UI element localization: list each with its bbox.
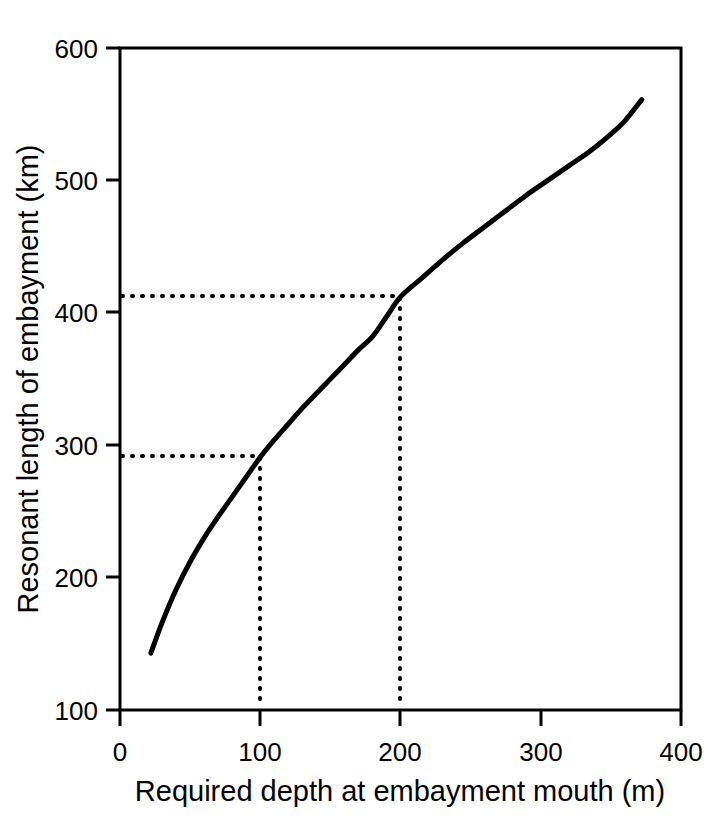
data-series-line <box>151 100 642 653</box>
x-tick-label-200: 200 <box>378 737 421 767</box>
x-axis-ticks <box>120 710 681 726</box>
y-tick-label-300: 300 <box>55 431 98 461</box>
x-tick-label-300: 300 <box>519 737 562 767</box>
x-tick-label-0: 0 <box>113 737 127 767</box>
y-axis-ticks <box>106 48 120 710</box>
y-tick-label-400: 400 <box>55 298 98 328</box>
chart-figure: 600 500 400 300 200 100 0 100 200 300 40… <box>0 0 715 818</box>
y-tick-label-100: 100 <box>55 696 98 726</box>
x-tick-label-100: 100 <box>238 737 281 767</box>
y-tick-label-500: 500 <box>55 166 98 196</box>
y-tick-label-600: 600 <box>55 34 98 64</box>
guide-lines <box>122 296 400 708</box>
y-axis-title: Resonant length of embayment (km) <box>12 144 44 613</box>
x-tick-label-400: 400 <box>659 737 702 767</box>
chart-canvas: 600 500 400 300 200 100 0 100 200 300 40… <box>0 0 715 818</box>
y-tick-label-200: 200 <box>55 563 98 593</box>
x-axis-title: Required depth at embayment mouth (m) <box>135 775 665 807</box>
